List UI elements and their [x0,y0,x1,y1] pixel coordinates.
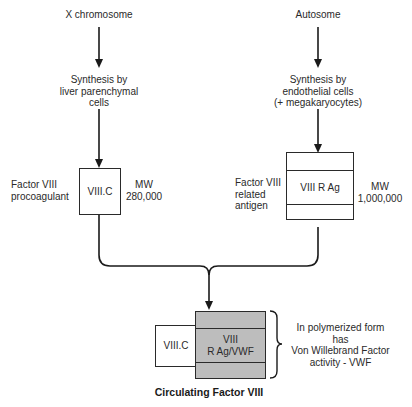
label-line: Factor VIII [235,177,281,189]
merge-right [209,227,318,275]
viii-r-ag-vwf-box: VIII R Ag/VWF [195,311,266,379]
mw-value: 1,000,000 [355,193,405,205]
right-synthesis-line: endothelial cells [253,86,383,98]
brace [270,311,282,378]
note-line: activity - VWF [283,357,398,369]
x-chromosome-label: X chromosome [49,9,149,21]
right-synthesis-line: Synthesis by [253,74,383,86]
merge-left [99,214,209,275]
viiic-box-label: VIII.C [87,186,112,198]
viii-r-ag-top-segment [287,153,353,171]
arrowhead-icon [314,59,322,68]
label-line: antigen [235,200,281,212]
viii-r-ag-box: VIII R Ag [286,152,354,220]
right-synthesis-text: Synthesis by endothelial cells (+ megaka… [253,74,383,109]
vwf-bottom-segment [196,362,265,378]
left-synthesis-line: Synthesis by [39,74,159,86]
polymerized-form-note: In polymerized form has Von Willebrand F… [283,322,398,368]
label-line: Factor VIII [11,179,69,191]
factor-viii-procoagulant-label: Factor VIII procoagulant [11,179,69,202]
circulating-factor-viii-caption: Circulating Factor VIII [139,387,279,399]
note-line: In polymerized form [283,322,398,334]
vwf-top-segment [196,312,265,329]
right-synthesis-line: (+ megakaryocytes) [253,97,383,109]
left-synthesis-line: liver parenchymal [39,86,159,98]
viii-r-ag-box-label: VIII R Ag [300,182,339,194]
mw-title: MW [355,181,405,193]
left-synthesis-line: cells [39,97,159,109]
viii-r-ag-middle-segment: VIII R Ag [287,171,353,204]
mw-value: 280,000 [124,191,164,203]
left-mw-label: MW 280,000 [124,179,164,202]
circulating-viiic-label: VIII.C [163,340,188,352]
arrowhead-icon [95,159,103,168]
note-line: has [283,334,398,346]
vwf-middle-segment: VIII R Ag/VWF [196,329,265,362]
factor-viii-related-antigen-label: Factor VIII related antigen [235,177,281,212]
arrowhead-icon [95,59,103,68]
mw-title: MW [124,179,164,191]
autosome-label: Autosome [268,9,368,21]
arrowhead-icon [205,301,213,310]
circulating-viiic-box: VIII.C [155,325,197,367]
label-line: procoagulant [11,191,69,203]
viiic-box: VIII.C [79,168,121,215]
viii-r-ag-bottom-segment [287,204,353,220]
label-line: related [235,189,281,201]
note-line: Von Willebrand Factor [283,345,398,357]
vwf-label-line: R Ag/VWF [207,346,254,358]
vwf-label-line: VIII [223,334,238,346]
right-mw-label: MW 1,000,000 [355,181,405,204]
left-synthesis-text: Synthesis by liver parenchymal cells [39,74,159,109]
